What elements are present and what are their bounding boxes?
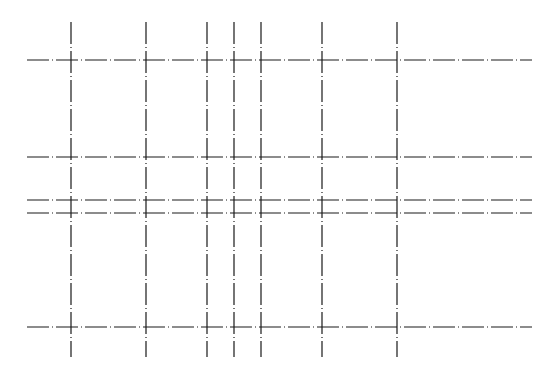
grid-svg (0, 0, 555, 379)
grid-drawing (0, 0, 555, 379)
